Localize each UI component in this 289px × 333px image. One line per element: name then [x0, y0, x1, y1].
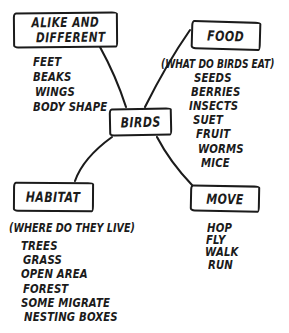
list-item: TREES	[21, 239, 117, 253]
list-item: SUET	[193, 113, 243, 127]
list-item: FEET	[33, 54, 107, 69]
node-alike-and-different: ALIKE AND DIFFERENT	[13, 12, 118, 49]
node-label: BIRDS	[120, 114, 160, 131]
list-item: SOME MIGRATE	[21, 296, 117, 310]
list-item: INSECTS	[189, 99, 242, 113]
node-habitat: HABITAT	[13, 182, 94, 213]
node-label: DIFFERENT	[36, 30, 106, 46]
list-item: BODY SHAPE	[33, 99, 107, 114]
alike-and-different-items: FEET BEAKS WINGS BODY SHAPE	[33, 54, 128, 114]
connector-birds-to-habitat	[75, 137, 112, 181]
list-item: FOREST	[23, 282, 118, 296]
list-item: WINGS	[35, 84, 108, 99]
node-food: FOOD	[191, 20, 262, 51]
node-label: MOVE	[206, 190, 244, 207]
list-item: SEEDS	[194, 71, 243, 85]
list-item: WORMS	[198, 142, 244, 156]
list-item: OPEN AREA	[21, 267, 117, 281]
list-item: MICE	[201, 156, 244, 170]
list-item: NESTING BOXES	[24, 310, 118, 324]
list-item: GRASS	[23, 253, 118, 267]
move-items: HOP FLY WALK RUN	[207, 222, 248, 272]
food-items: SEEDS BERRIES INSECTS SUET FRUIT WORMS M…	[194, 71, 257, 170]
node-label: HABITAT	[26, 189, 81, 205]
node-label: FOOD	[207, 27, 244, 44]
list-item: FRUIT	[196, 127, 243, 141]
birds-concept-map: ALIKE AND DIFFERENT FOOD BIRDS HABITAT M…	[0, 0, 289, 333]
habitat-caption: (WHERE DO THEY LIVE)	[9, 221, 135, 235]
habitat-items: TREES GRASS OPEN AREA FOREST SOME MIGRAT…	[21, 239, 144, 324]
connector-birds-to-move	[157, 137, 192, 185]
list-item: RUN	[208, 259, 239, 271]
node-move: MOVE	[190, 184, 261, 212]
list-item: BEAKS	[33, 69, 107, 84]
list-item: BERRIES	[191, 85, 242, 99]
